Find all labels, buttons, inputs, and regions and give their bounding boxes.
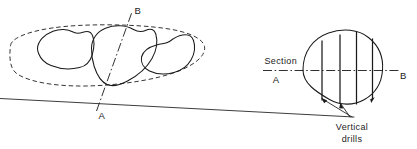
drill-leader-left — [323, 99, 353, 117]
section-label-line2: A — [273, 74, 280, 85]
section-label-line1: Section — [265, 56, 297, 66]
section-view: Section A B Vertical drills — [0, 30, 407, 143]
plan-section-label-b: B — [135, 5, 142, 16]
vertical-drills-leaders — [0, 97, 375, 117]
plan-section-label-a: A — [99, 110, 106, 121]
orebody-lobe-left — [38, 29, 94, 68]
vertical-drills-label-line1: Vertical — [336, 122, 368, 132]
orebody-section-outline — [303, 30, 383, 104]
figure-root: B A Section A B — [0, 0, 417, 149]
section-label-right-b: B — [400, 70, 407, 81]
drill-leader-right — [0, 99, 354, 118]
vertical-drills-label-line2: drills — [342, 134, 363, 144]
plan-view: B A — [10, 5, 205, 121]
drill-leader-center — [341, 104, 350, 117]
technical-drawing-canvas: B A Section A B — [0, 0, 417, 149]
